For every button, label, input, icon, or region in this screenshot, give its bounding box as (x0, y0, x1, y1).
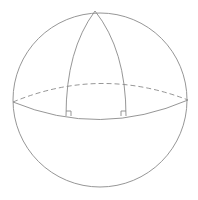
sphere-diagram (0, 0, 198, 200)
right-angle-marker-left (66, 111, 71, 116)
equator-back-dashed (13, 83, 188, 102)
equator-front (13, 100, 188, 120)
right-angle-marker-right (121, 111, 126, 116)
sphere-outline (13, 13, 187, 187)
meridian-left (66, 11, 95, 116)
meridian-right (95, 11, 126, 116)
sphere-svg (0, 0, 198, 200)
